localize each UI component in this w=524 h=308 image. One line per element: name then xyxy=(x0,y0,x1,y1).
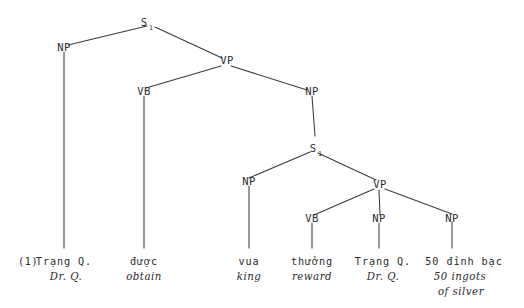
terminal-source-trang-q-2: Trạng Q. xyxy=(355,256,411,267)
terminal-gloss-duoc: obtain xyxy=(126,271,162,282)
node-vp-embedded: VP xyxy=(373,178,386,190)
edge-s-embedded-to-np-subject xyxy=(249,152,310,178)
node-np-subject: NP xyxy=(57,41,70,53)
terminal-gloss-dinh-bac-line1: 50 ingots xyxy=(434,271,487,282)
node-np-embedded-obj2: NP xyxy=(445,212,458,224)
node-vb-matrix: VB xyxy=(137,85,150,97)
terminal-gloss-vua: king xyxy=(237,271,262,282)
node-np-embedded-obj1: NP xyxy=(372,212,385,224)
terminal-gloss-trang-q-1: Dr. Q. xyxy=(49,271,82,283)
node-vp-matrix: VP xyxy=(220,54,233,66)
node-s-top-subscript: 1 xyxy=(149,24,153,32)
terminal-source-vua: vua xyxy=(238,256,259,267)
terminal-source-dinh-bac: 50 đỉnh bạc xyxy=(425,256,502,267)
node-s-embedded-subscript: 1 xyxy=(318,150,322,158)
node-s-top: S xyxy=(141,16,148,28)
edge-s-top-to-vp-matrix xyxy=(155,27,222,58)
edge-vp-embedded-to-np-obj2 xyxy=(385,189,452,214)
terminal-gloss-thuong: reward xyxy=(292,271,332,282)
stem-np-object-to-s-embedded xyxy=(312,96,315,136)
tree-diagram: S 1 NP VP VB NP S 1 NP VP VB NP NP (1) T… xyxy=(0,0,524,308)
node-np-object: NP xyxy=(305,85,318,97)
edge-s-embedded-to-vp-embedded xyxy=(318,153,376,180)
node-np-embedded-subject: NP xyxy=(242,175,255,187)
terminal-source-thuong: thưởng xyxy=(291,256,333,267)
syntax-tree-figure: S 1 NP VP VB NP S 1 NP VP VB NP NP (1) T… xyxy=(0,0,524,308)
node-vb-embedded: VB xyxy=(305,212,318,224)
terminal-gloss-trang-q-2: Dr. Q. xyxy=(366,271,399,283)
edge-vp-embedded-to-vb xyxy=(314,189,374,215)
edge-vp-matrix-to-vb xyxy=(146,66,221,88)
terminal-source-trang-q-1: Trạng Q. xyxy=(36,256,92,267)
terminal-gloss-dinh-bac-line2: of silver xyxy=(438,286,485,297)
edge-s-top-to-np-subject xyxy=(68,26,147,45)
node-s-embedded: S xyxy=(310,142,317,154)
terminal-source-duoc: được xyxy=(130,256,158,267)
edge-vp-matrix-to-np-object xyxy=(231,66,307,90)
